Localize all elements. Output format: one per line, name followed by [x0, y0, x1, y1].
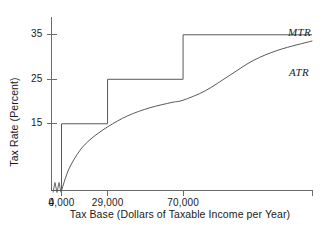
y-axis-tick-label-2: 35 — [21, 28, 43, 39]
series-label-atr: ATR — [289, 66, 309, 78]
series-label-mtr: MTR — [288, 26, 311, 38]
series-group — [52, 35, 313, 191]
series-line-mtr — [52, 35, 313, 191]
chart-figure: Tax Rate (Percent) 152535 04,00029,00070… — [0, 0, 334, 244]
series-curve-atr — [62, 41, 313, 190]
y-axis-tick-label-0: 15 — [21, 117, 43, 128]
x-axis-tick-label-2: 29,000 — [83, 197, 133, 208]
axes-group — [47, 17, 313, 196]
x-axis-tick-label-3: 70,000 — [158, 197, 208, 208]
x-axis-tick-label-1: 4,000 — [37, 197, 87, 208]
y-axis-tick-label-1: 25 — [21, 73, 43, 84]
x-axis-title: Tax Base (Dollars of Taxable Income per … — [40, 208, 320, 220]
